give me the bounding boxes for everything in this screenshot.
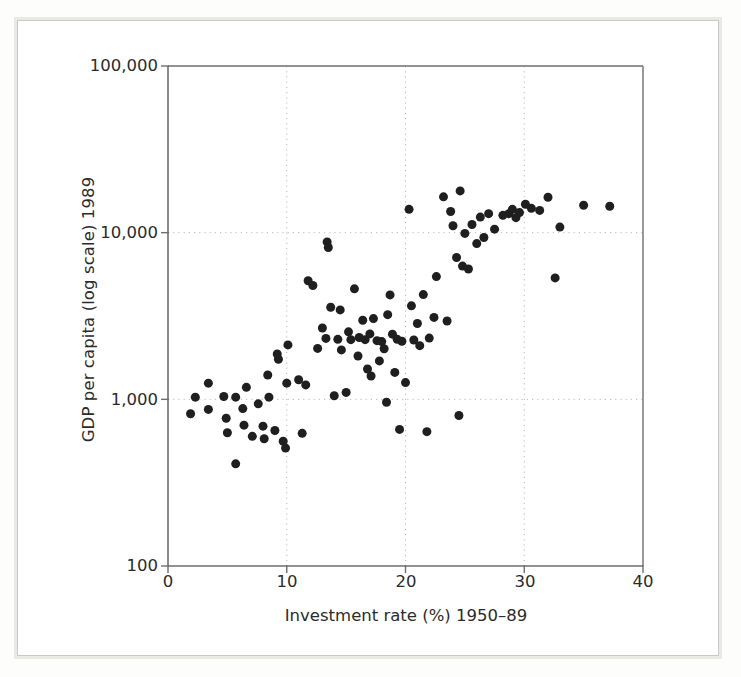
data-point bbox=[407, 301, 416, 310]
data-point bbox=[472, 239, 481, 248]
data-point bbox=[449, 221, 458, 230]
data-point bbox=[419, 290, 428, 299]
data-point bbox=[555, 223, 564, 232]
x-tick-label-30: 30 bbox=[505, 572, 545, 591]
data-point bbox=[464, 265, 473, 274]
scatter-chart: 100,000 10,000 1,000 100 0 10 20 30 40 G… bbox=[0, 0, 741, 677]
y-axis-label: GDP per capita (log scale) 1989 bbox=[79, 160, 98, 460]
data-point bbox=[544, 193, 553, 202]
data-point bbox=[476, 213, 485, 222]
data-point bbox=[308, 281, 317, 290]
data-point bbox=[330, 391, 339, 400]
data-point bbox=[454, 411, 463, 420]
data-point bbox=[240, 421, 249, 430]
data-point bbox=[254, 399, 263, 408]
data-point bbox=[283, 340, 292, 349]
data-point bbox=[242, 383, 251, 392]
y-tick-label-10000: 10,000 bbox=[58, 223, 158, 242]
data-point bbox=[222, 414, 231, 423]
data-point bbox=[367, 372, 376, 381]
data-point bbox=[336, 305, 345, 314]
x-tick-label-20: 20 bbox=[386, 572, 426, 591]
data-point bbox=[515, 208, 524, 217]
x-tick-label-40: 40 bbox=[623, 572, 663, 591]
data-point bbox=[282, 379, 291, 388]
data-point bbox=[380, 344, 389, 353]
data-point bbox=[382, 398, 391, 407]
x-axis-label: Investment rate (%) 1950–89 bbox=[168, 606, 644, 625]
data-point bbox=[223, 428, 232, 437]
data-point bbox=[527, 204, 536, 213]
data-point bbox=[413, 319, 422, 328]
data-point bbox=[490, 225, 499, 234]
data-point bbox=[405, 205, 414, 214]
data-point bbox=[313, 344, 322, 353]
data-point bbox=[383, 310, 392, 319]
data-point bbox=[365, 329, 374, 338]
data-point bbox=[333, 335, 342, 344]
data-point bbox=[318, 323, 327, 332]
x-tick-label-10: 10 bbox=[267, 572, 307, 591]
data-point bbox=[231, 459, 240, 468]
x-tick-label-0: 0 bbox=[148, 572, 188, 591]
data-point bbox=[395, 425, 404, 434]
data-point bbox=[263, 370, 272, 379]
data-point bbox=[354, 351, 363, 360]
data-point bbox=[301, 380, 310, 389]
data-point bbox=[430, 313, 439, 322]
data-point bbox=[415, 341, 424, 350]
data-point bbox=[386, 290, 395, 299]
data-point bbox=[551, 273, 560, 282]
data-point bbox=[452, 253, 461, 262]
data-point bbox=[443, 317, 452, 326]
data-point bbox=[321, 334, 330, 343]
data-point bbox=[460, 229, 469, 238]
data-point bbox=[425, 334, 434, 343]
data-point bbox=[535, 206, 544, 215]
data-point bbox=[350, 284, 359, 293]
data-point bbox=[264, 393, 273, 402]
data-point bbox=[358, 316, 367, 325]
data-point bbox=[344, 327, 353, 336]
data-point bbox=[369, 314, 378, 323]
data-point bbox=[326, 303, 335, 312]
y-tick-label-100000: 100,000 bbox=[58, 56, 158, 75]
y-tick-label-1000: 1,000 bbox=[58, 390, 158, 409]
data-point bbox=[324, 243, 333, 252]
y-tick-label-100: 100 bbox=[58, 556, 158, 575]
data-point bbox=[337, 345, 346, 354]
data-point bbox=[238, 404, 247, 413]
data-point bbox=[468, 220, 477, 229]
data-point bbox=[342, 388, 351, 397]
data-point bbox=[401, 378, 410, 387]
data-point bbox=[248, 432, 257, 441]
data-point bbox=[191, 393, 200, 402]
data-point bbox=[446, 207, 455, 216]
page-canvas: 100,000 10,000 1,000 100 0 10 20 30 40 G… bbox=[0, 0, 741, 677]
data-point bbox=[484, 209, 493, 218]
data-point bbox=[259, 422, 268, 431]
data-point bbox=[281, 444, 290, 453]
data-point bbox=[186, 409, 195, 418]
data-point bbox=[390, 368, 399, 377]
data-point bbox=[204, 379, 213, 388]
data-point bbox=[605, 202, 614, 211]
data-point bbox=[346, 335, 355, 344]
data-point bbox=[397, 337, 406, 346]
data-point bbox=[432, 272, 441, 281]
data-point bbox=[479, 233, 488, 242]
data-point bbox=[439, 192, 448, 201]
data-point bbox=[422, 427, 431, 436]
data-point bbox=[260, 434, 269, 443]
data-point bbox=[579, 201, 588, 210]
data-point bbox=[231, 393, 240, 402]
data-point bbox=[274, 355, 283, 364]
data-point bbox=[270, 426, 279, 435]
data-point bbox=[219, 392, 228, 401]
data-point bbox=[298, 429, 307, 438]
data-point bbox=[204, 405, 213, 414]
data-point bbox=[375, 356, 384, 365]
data-point bbox=[456, 186, 465, 195]
